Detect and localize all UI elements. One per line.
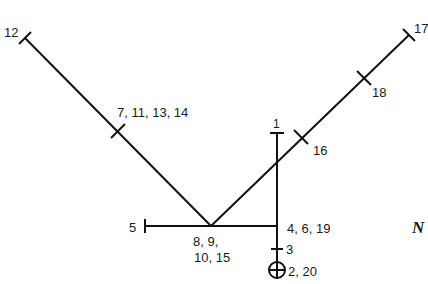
label-2-20: 2, 20 bbox=[288, 264, 317, 279]
label-12: 12 bbox=[4, 25, 18, 40]
tick-16 bbox=[294, 130, 308, 144]
right-arm-line bbox=[211, 35, 409, 226]
label-16: 16 bbox=[313, 143, 327, 158]
compass-n-label: N bbox=[411, 218, 425, 237]
label-4-6-19: 4, 6, 19 bbox=[287, 221, 330, 236]
label-vertex-line1: 8, 9, bbox=[193, 234, 218, 249]
label-18: 18 bbox=[372, 85, 386, 100]
label-1: 1 bbox=[273, 117, 280, 131]
stick-diagram: 12 7, 11, 13, 14 17 18 16 1 5 8, 9, 10, … bbox=[0, 0, 428, 284]
circle-cross-icon bbox=[269, 262, 285, 278]
label-vertex-line2: 10, 15 bbox=[194, 250, 230, 265]
label-7-11-13-14: 7, 11, 13, 14 bbox=[117, 105, 188, 120]
label-5: 5 bbox=[129, 220, 136, 235]
label-3: 3 bbox=[286, 242, 293, 257]
label-17: 17 bbox=[414, 21, 428, 36]
